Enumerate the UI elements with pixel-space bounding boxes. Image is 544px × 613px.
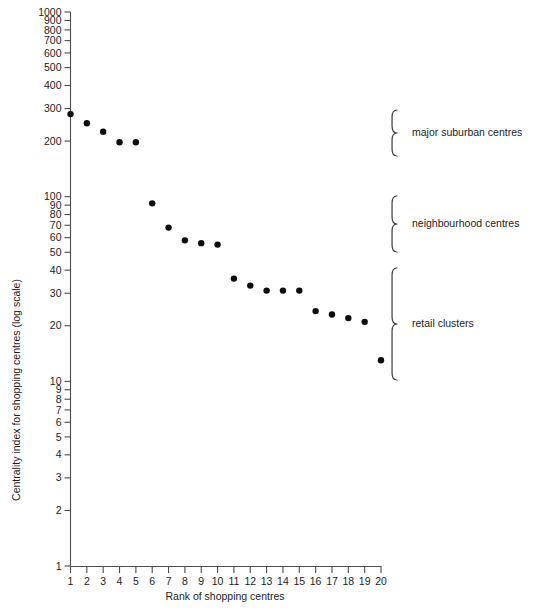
x-axis-ticks: 1234567891011121314151617181920	[68, 566, 387, 587]
data-point	[329, 311, 335, 317]
data-point	[133, 139, 139, 145]
annotation-brackets: major suburban centresneighbourhood cent…	[392, 110, 522, 380]
y-tick-label: 50	[50, 246, 62, 258]
y-tick-label: 1	[56, 560, 62, 572]
x-tick-label: 13	[261, 575, 273, 587]
x-tick-label: 2	[84, 575, 90, 587]
x-axis-title: Rank of shopping centres	[165, 590, 284, 602]
x-tick-label: 10	[212, 575, 224, 587]
annotation-label: retail clusters	[412, 317, 474, 329]
y-tick-label: 40	[50, 264, 62, 276]
annotation-label: neighbourhood centres	[412, 217, 519, 229]
y-tick-label: 400	[44, 79, 62, 91]
y-tick-label: 200	[44, 135, 62, 147]
data-point	[312, 308, 318, 314]
data-point	[149, 200, 155, 206]
x-tick-label: 9	[198, 575, 204, 587]
y-tick-label: 5	[56, 431, 62, 443]
data-point	[378, 357, 384, 363]
data-point	[280, 287, 286, 293]
y-tick-label: 500	[44, 61, 62, 73]
data-points	[67, 111, 384, 364]
x-tick-label: 17	[326, 575, 338, 587]
data-point	[165, 224, 171, 230]
annotation-brace	[392, 268, 397, 380]
annotation-brace	[392, 196, 397, 252]
x-tick-label: 12	[244, 575, 256, 587]
x-tick-label: 18	[342, 575, 354, 587]
data-point	[231, 275, 237, 281]
chart-page: 1000900800700600500400300200100908070605…	[0, 0, 544, 613]
y-tick-label: 7	[56, 404, 62, 416]
x-tick-label: 8	[182, 575, 188, 587]
y-tick-label: 6	[56, 416, 62, 428]
y-tick-label: 700	[44, 34, 62, 46]
data-point	[361, 319, 367, 325]
x-tick-label: 15	[293, 575, 305, 587]
x-tick-label: 6	[149, 575, 155, 587]
x-tick-label: 14	[277, 575, 289, 587]
data-point	[198, 240, 204, 246]
x-tick-label: 1	[68, 575, 74, 587]
y-tick-label: 300	[44, 102, 62, 114]
annotation-brace	[392, 110, 397, 156]
y-tick-label: 70	[50, 219, 62, 231]
x-tick-label: 5	[133, 575, 139, 587]
x-tick-label: 7	[166, 575, 172, 587]
data-point	[116, 139, 122, 145]
y-tick-label: 4	[56, 448, 62, 460]
x-tick-label: 11	[228, 575, 239, 587]
annotation-label: major suburban centres	[412, 126, 522, 138]
data-point	[100, 128, 106, 134]
y-axis-ticks: 1000900800700600500400300200100908070605…	[38, 6, 70, 572]
y-tick-label: 30	[50, 287, 62, 299]
data-point	[296, 287, 302, 293]
data-point	[84, 120, 90, 126]
x-tick-label: 20	[375, 575, 387, 587]
x-tick-label: 19	[359, 575, 371, 587]
data-point	[214, 241, 220, 247]
y-tick-label: 600	[44, 47, 62, 59]
data-point	[263, 287, 269, 293]
data-point	[67, 111, 73, 117]
x-tick-label: 4	[117, 575, 123, 587]
y-tick-label: 60	[50, 231, 62, 243]
y-tick-label: 20	[50, 319, 62, 331]
y-tick-label: 2	[56, 504, 62, 516]
x-tick-label: 16	[310, 575, 322, 587]
y-tick-label: 3	[56, 471, 62, 483]
data-point	[345, 315, 351, 321]
y-axis-title: Centrality index for shopping centres (l…	[10, 279, 22, 501]
data-point	[182, 237, 188, 243]
data-point	[247, 282, 253, 288]
scatter-chart: 1000900800700600500400300200100908070605…	[0, 0, 544, 613]
x-tick-label: 3	[100, 575, 106, 587]
